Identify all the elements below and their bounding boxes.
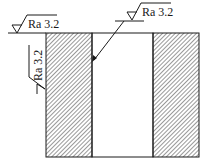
part-section xyxy=(46,33,199,157)
leader-line xyxy=(94,21,124,60)
roughness-symbol-left: Ra 3.2 xyxy=(29,45,45,94)
section-drawing: Ra 3.2 Ra 3.2 Ra 3.2 xyxy=(0,0,203,166)
left-wall-hatch xyxy=(46,33,92,157)
roughness-symbol-top-left: Ra 3.2 xyxy=(12,15,59,33)
roughness-label-left: Ra 3.2 xyxy=(31,50,45,81)
arrowhead-icon xyxy=(92,55,97,62)
right-wall-hatch xyxy=(153,33,199,157)
roughness-label-top-left: Ra 3.2 xyxy=(28,17,59,31)
bore-outline xyxy=(92,33,153,157)
roughness-label-top-right: Ra 3.2 xyxy=(142,5,173,19)
